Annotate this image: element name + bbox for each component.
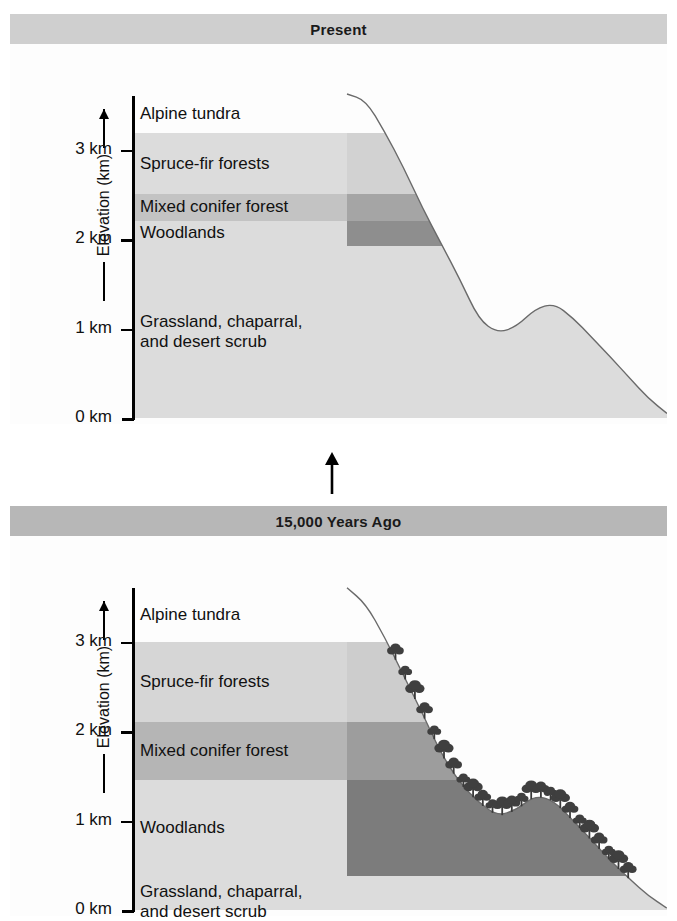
axis-title-past: Elevation (km) bbox=[93, 597, 115, 797]
y-axis-tick bbox=[121, 150, 132, 153]
y-axis-foot bbox=[122, 418, 134, 421]
zone-label: Grassland, chaparral, and desert scrub bbox=[140, 312, 303, 352]
zone-swatch-outer bbox=[347, 722, 667, 780]
zone-label: Mixed conifer forest bbox=[140, 741, 288, 761]
y-axis-tick bbox=[121, 821, 132, 824]
y-axis-tick-label: 0 km bbox=[50, 899, 112, 919]
y-axis-tick bbox=[121, 239, 132, 242]
zone-label: Alpine tundra bbox=[140, 104, 240, 124]
zone-label: Spruce-fir forests bbox=[140, 154, 269, 174]
zone-label: Alpine tundra bbox=[140, 605, 240, 625]
zone-swatch-outer bbox=[347, 246, 667, 418]
y-axis-line bbox=[132, 96, 135, 421]
panel-past-title-bar: 15,000 Years Ago bbox=[10, 506, 667, 536]
zone-label: Woodlands bbox=[140, 818, 225, 838]
zone-swatch-outer bbox=[347, 588, 667, 642]
y-axis-tick-label: 0 km bbox=[50, 407, 112, 427]
zone-swatch-outer bbox=[347, 642, 667, 723]
y-axis-line bbox=[132, 588, 135, 913]
panel-present: Present Elevation (km) Alpine tundraSpru… bbox=[0, 14, 677, 424]
panel-past: 15,000 Years Ago Elevation (km) Alpine t… bbox=[0, 506, 677, 916]
y-axis-tick-label: 2 km bbox=[50, 228, 112, 248]
panel-present-title: Present bbox=[310, 21, 366, 38]
zone-swatch-outer bbox=[347, 194, 667, 221]
y-axis-tick-label: 1 km bbox=[50, 318, 112, 338]
y-axis-tick-label: 1 km bbox=[50, 810, 112, 830]
zone-swatch-outer bbox=[347, 876, 667, 910]
panel-past-title: 15,000 Years Ago bbox=[276, 513, 402, 530]
y-axis-tick bbox=[121, 731, 132, 734]
panel-present-title-bar: Present bbox=[10, 14, 667, 44]
flow-up-arrow-icon bbox=[322, 452, 342, 494]
zone-label: Grassland, chaparral, and desert scrub bbox=[140, 882, 303, 921]
panel-present-plot-area: Elevation (km) Alpine tundraSpruce-fir f… bbox=[10, 44, 667, 424]
y-axis-tick-label: 2 km bbox=[50, 720, 112, 740]
y-axis-tick-label: 3 km bbox=[50, 139, 112, 159]
y-axis-tick bbox=[121, 329, 132, 332]
y-axis-tick bbox=[121, 642, 132, 645]
zone-label: Spruce-fir forests bbox=[140, 672, 269, 692]
zone-swatch-outer bbox=[347, 133, 667, 194]
zone-swatch-outer bbox=[347, 780, 667, 876]
axis-title-present: Elevation (km) bbox=[93, 105, 115, 305]
zone-label: Mixed conifer forest bbox=[140, 197, 288, 217]
y-axis-tick-label: 3 km bbox=[50, 631, 112, 651]
panel-past-plot-area: Elevation (km) Alpine tundraSpruce-fir f… bbox=[10, 536, 667, 916]
zone-swatch-outer bbox=[347, 221, 667, 246]
y-axis-foot bbox=[122, 910, 134, 913]
zone-swatch-outer bbox=[347, 96, 667, 134]
zone-label: Woodlands bbox=[140, 223, 225, 243]
